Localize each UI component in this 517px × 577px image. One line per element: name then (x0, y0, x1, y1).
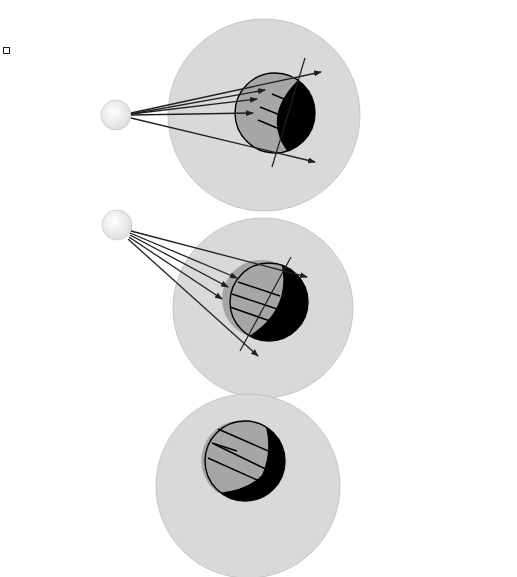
panel-winter-north: I've started emitting repeated zero-widt… (156, 394, 340, 577)
sun (101, 100, 131, 130)
panel-summer-north (101, 19, 360, 211)
sun (102, 210, 132, 240)
sun-earth-diagrams: I've started emitting repeated zero-widt… (0, 0, 517, 577)
earth: I've started emitting repeated zero-widt… (201, 421, 285, 501)
panel-equinox (102, 210, 353, 398)
